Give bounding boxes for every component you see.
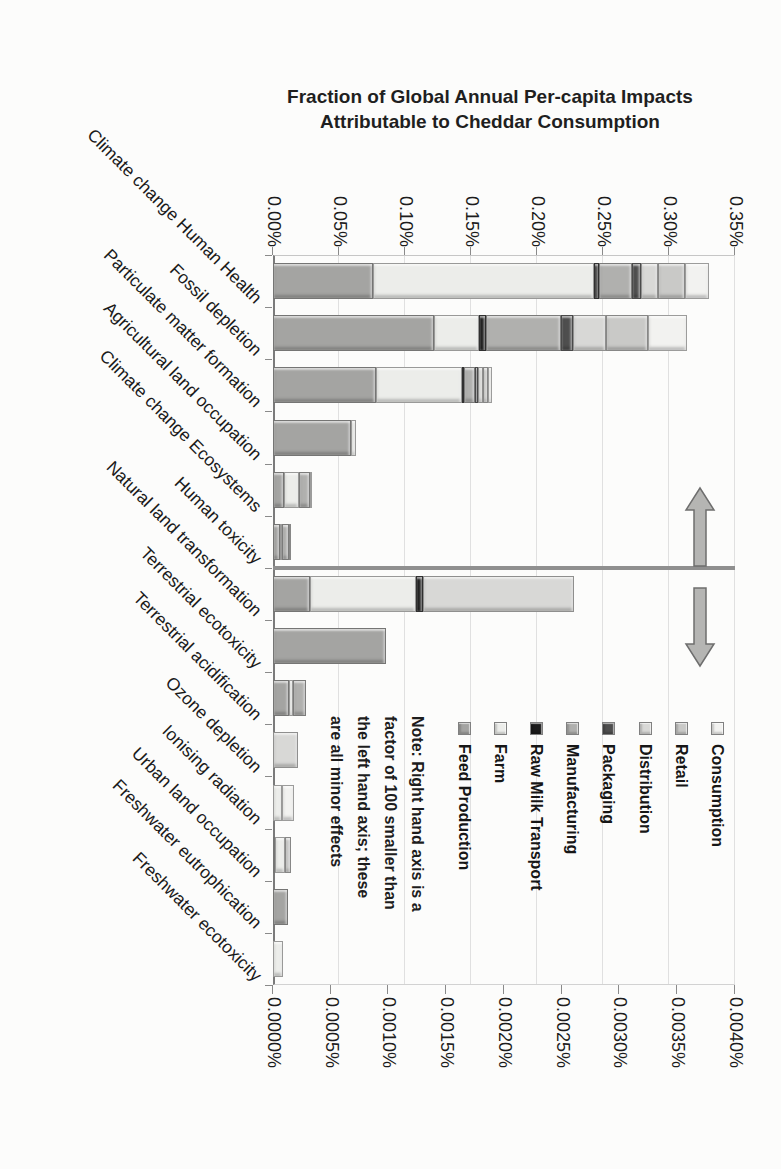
left-axis-tick-label: 0.10% [395, 150, 416, 247]
bar-segment [273, 367, 376, 403]
bar-segment [282, 785, 294, 821]
bar-segment [273, 785, 282, 821]
legend-label: Feed Production [455, 744, 473, 870]
bar-segment [351, 420, 356, 456]
bar-segment [641, 263, 658, 299]
category-axis-tick [265, 829, 272, 830]
legend-swatch [711, 722, 724, 735]
gridline [338, 256, 339, 984]
legend-swatch [494, 722, 507, 735]
bar-segment [299, 472, 310, 508]
left-axis-tick [602, 247, 603, 255]
legend-label: Farm [491, 744, 509, 783]
bar-segment [273, 941, 283, 977]
bar-segment [275, 837, 284, 873]
category-axis-tick [265, 568, 272, 569]
bar-segment [599, 263, 632, 299]
category-axis-tick [265, 411, 272, 412]
left-axis-tick [338, 247, 339, 255]
legend-label: Raw Milk Transport [527, 744, 545, 891]
right-axis-tick-label: 0.0000% [263, 997, 284, 1068]
category-axis-tick [265, 516, 272, 517]
bar-segment [464, 367, 475, 403]
category-axis-tick [265, 985, 272, 986]
left-axis-tick-label: 0.30% [659, 150, 680, 247]
bar-segment [293, 680, 307, 716]
right-axis-tick [272, 985, 273, 994]
bar-segment [273, 472, 284, 508]
bar-segment [373, 263, 593, 299]
right-axis-tick-label: 0.0030% [610, 997, 631, 1068]
legend-swatch [675, 722, 688, 735]
category-axis-tick [265, 724, 272, 725]
bar-segment [658, 263, 684, 299]
category-axis-tick [265, 776, 272, 777]
right-axis-tick [330, 985, 331, 994]
right-axis-tick [619, 985, 620, 994]
bar-segment [289, 524, 292, 560]
bar-segment [273, 680, 289, 716]
category-axis-tick [265, 672, 272, 673]
bar-segment [273, 263, 373, 299]
bar-segment [282, 524, 289, 560]
bar-segment [606, 315, 648, 351]
category-axis-tick [265, 881, 272, 882]
left-axis-tick-label: 0.15% [461, 150, 482, 247]
bar-segment [434, 315, 479, 351]
right-axis-arrow-icon [686, 588, 714, 666]
right-axis-tick-label: 0.0015% [436, 997, 457, 1068]
axis-divider-line [273, 566, 735, 570]
right-axis-tick-label: 0.0020% [494, 997, 515, 1068]
axis-note-line: the left hand axis; these [354, 716, 372, 898]
right-axis-tick-label: 0.0035% [667, 997, 688, 1068]
bar-segment [488, 367, 492, 403]
bar-segment [648, 315, 688, 351]
left-axis-tick [668, 247, 669, 255]
rotated-chart-canvas: 0.00%0.05%0.10%0.15%0.20%0.25%0.30%0.35%… [0, 50, 760, 1110]
bar-segment [273, 628, 386, 664]
category-axis-tick [265, 464, 272, 465]
left-axis-tick-label: 0.35% [725, 150, 746, 247]
legend-label: Packaging [599, 744, 617, 824]
legend-swatch [639, 722, 652, 735]
bar-segment [423, 576, 574, 612]
right-axis-tick [445, 985, 446, 994]
gridline [602, 256, 603, 984]
bar-segment [416, 576, 423, 612]
right-axis-tick [561, 985, 562, 994]
right-axis-tick [676, 985, 677, 994]
axis-note-line: Note: Right hand axis is a [408, 716, 426, 912]
bar-segment [376, 367, 462, 403]
bar-segment [632, 263, 641, 299]
gridline [470, 256, 471, 984]
axis-note-line: factor of 100 smaller than [381, 716, 399, 910]
plot-area [273, 255, 735, 985]
category-axis-tick [265, 933, 272, 934]
legend-label: Consumption [708, 744, 726, 847]
bar-segment [573, 315, 606, 351]
category-label: Fossil depletion [165, 259, 266, 360]
bar-segment [285, 837, 292, 873]
left-axis-tick-label: 0.05% [329, 150, 350, 247]
gridline [404, 256, 405, 984]
bar-segment [273, 576, 310, 612]
left-axis-tick [404, 247, 405, 255]
legend-label: Distribution [636, 744, 654, 834]
legend-swatch [458, 722, 471, 735]
bar-segment [273, 889, 288, 925]
bar-segment [273, 524, 280, 560]
legend-label: Retail [672, 744, 690, 788]
category-axis-tick [265, 359, 272, 360]
right-axis-tick-label: 0.0005% [321, 997, 342, 1068]
left-axis-tick [470, 247, 471, 255]
category-axis-tick [265, 255, 272, 256]
axis-direction-arrows [678, 470, 722, 670]
legend-label: Manufacturing [563, 744, 581, 854]
legend-swatch [566, 722, 579, 735]
bar-segment [479, 315, 486, 351]
right-axis-tick-label: 0.0025% [552, 997, 573, 1068]
legend-swatch [602, 722, 615, 735]
right-axis-tick [503, 985, 504, 994]
left-axis-tick-label: 0.00% [263, 150, 284, 247]
bar-segment [284, 472, 300, 508]
